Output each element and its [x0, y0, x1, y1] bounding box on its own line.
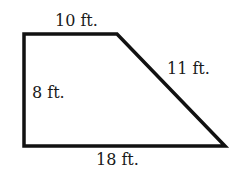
slant-side-label: 11 ft.	[167, 61, 210, 77]
left-side-label: 8 ft.	[32, 85, 65, 101]
bottom-side-label: 18 ft.	[96, 152, 139, 168]
top-side-label: 10 ft.	[55, 13, 98, 29]
